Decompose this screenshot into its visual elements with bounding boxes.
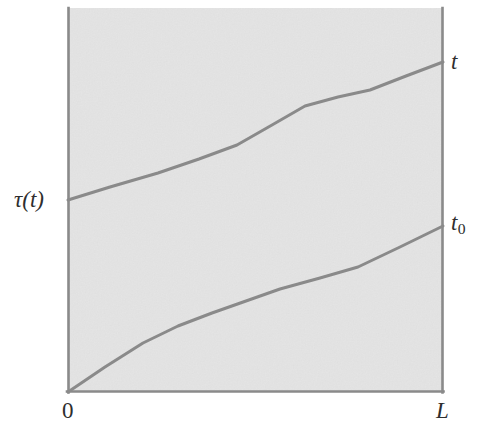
x-axis-end-label: L — [436, 399, 449, 422]
plot-svg — [0, 0, 486, 445]
lower-curve-end-subscript: 0 — [458, 220, 466, 237]
upper-curve-end-label: t — [451, 50, 457, 73]
figure-container: τ(t) t t0 0 L — [0, 0, 486, 445]
tau-of-t-label: τ(t) — [14, 188, 44, 211]
lower-curve-end-base: t — [451, 210, 457, 235]
plot-background-texture — [68, 8, 443, 392]
upper-curve-end-text: t — [451, 49, 457, 74]
lower-curve-end-label: t0 — [451, 211, 466, 237]
x-axis-start-label: 0 — [62, 399, 74, 422]
x-axis-end-text: L — [436, 398, 449, 423]
x-axis-start-text: 0 — [62, 398, 74, 423]
tau-of-t-text: τ(t) — [14, 187, 44, 212]
